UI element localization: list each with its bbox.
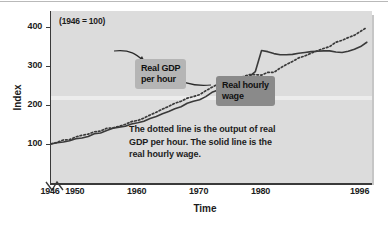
callout-wage-line-2: wage [222, 91, 269, 102]
callout-gdp-line-2: per hour [141, 74, 180, 85]
top-divider [0, 1, 388, 2]
y-tick-mark-200 [46, 105, 50, 107]
caption-line-2: GDP per hour. The solid line is the [129, 136, 319, 149]
callout-real-gdp-per-hour: Real GDP per hour [135, 59, 186, 89]
plot-area: (1946 = 100) Real GDP per hour Real hour… [50, 11, 372, 183]
x-tick-label-1960: 1960 [117, 186, 157, 196]
callout-gdp-line-1: Real GDP [141, 63, 180, 74]
x-tick-label-1950: 1950 [55, 186, 95, 196]
x-tick-label-1996: 1996 [340, 186, 380, 196]
caption-line-3: real hourly wage. [129, 148, 319, 161]
callout-real-hourly-wage: Real hourly wage [216, 76, 275, 106]
caption-line-1: The dotted line is the output of real [129, 123, 319, 136]
callout-wage-line-1: Real hourly [222, 80, 269, 91]
x-tick-label-1970: 1970 [179, 186, 219, 196]
x-axis-line [50, 183, 372, 185]
y-tick-mark-100 [46, 144, 50, 146]
base-year-note: (1946 = 100) [59, 16, 105, 26]
y-tick-label-100: 100 [16, 138, 42, 148]
y-axis-title: Index [12, 68, 23, 128]
y-tick-mark-300 [46, 66, 50, 68]
x-tick-label-1980: 1980 [241, 186, 281, 196]
x-axis-title: Time [165, 203, 245, 214]
chart-caption: The dotted line is the output of real GD… [129, 123, 319, 161]
chart-figure: (1946 = 100) Real GDP per hour Real hour… [0, 0, 388, 225]
y-tick-label-400: 400 [16, 21, 42, 31]
y-tick-mark-400 [46, 27, 50, 29]
